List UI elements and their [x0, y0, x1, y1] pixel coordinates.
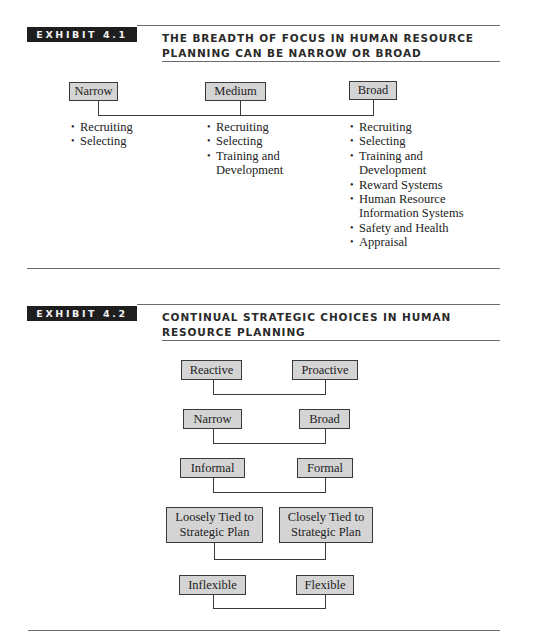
connector — [325, 429, 326, 443]
exhibit-bottom-rule — [27, 268, 500, 269]
connector — [325, 543, 326, 559]
list-item: Recruiting — [350, 120, 480, 134]
narrow-list: Recruiting Selecting — [71, 120, 191, 149]
medium-list: Recruiting Selecting Training and Develo… — [207, 120, 317, 178]
connector — [213, 443, 326, 444]
title-line-2: Resource Planning — [162, 325, 502, 340]
list-item: Human Resource Information Systems — [350, 192, 480, 221]
box-loosely-tied: Loosely Tied to Strategic Plan — [166, 507, 263, 543]
box-narrow: Narrow — [183, 409, 242, 429]
title-top-rule — [137, 25, 500, 26]
connector — [213, 394, 326, 395]
box-reactive: Reactive — [181, 360, 242, 380]
connector — [98, 115, 374, 116]
connector — [213, 380, 214, 394]
title-bottom-rule — [162, 340, 500, 341]
connector — [213, 492, 326, 493]
connector — [213, 478, 214, 492]
connector — [213, 429, 214, 443]
connector — [325, 595, 326, 608]
connector — [325, 380, 326, 394]
box-inflexible: Inflexible — [179, 575, 246, 595]
box-broad: Broad — [299, 409, 350, 429]
exhibit-label: EXHIBIT 4.1 — [27, 27, 137, 42]
list-item: Selecting — [207, 134, 317, 148]
list-item: Safety and Health — [350, 221, 480, 235]
connector — [98, 101, 99, 116]
connector — [213, 608, 326, 609]
title-bottom-rule — [162, 61, 500, 62]
connector — [325, 478, 326, 492]
box-flexible: Flexible — [296, 575, 354, 595]
box-medium: Medium — [205, 82, 266, 101]
list-item: Selecting — [350, 134, 480, 148]
connector — [213, 595, 214, 608]
list-item: Selecting — [71, 134, 191, 148]
exhibit-label: EXHIBIT 4.2 — [27, 306, 137, 321]
exhibit-title: The Breadth of Focus in Human Resource P… — [162, 31, 502, 61]
exhibit-bottom-rule — [28, 630, 500, 631]
box-narrow: Narrow — [69, 82, 118, 101]
title-line-1: The Breadth of Focus in Human Resource — [162, 31, 502, 46]
box-closely-tied: Closely Tied to Strategic Plan — [279, 507, 373, 543]
list-item: Recruiting — [207, 120, 317, 134]
title-line-2: Planning Can Be Narrow or Broad — [162, 46, 502, 61]
connector — [214, 543, 215, 559]
list-item: Training and Development — [207, 149, 317, 178]
list-item: Reward Systems — [350, 178, 480, 192]
connector — [373, 100, 374, 116]
title-top-rule — [137, 304, 500, 305]
exhibit-title: Continual Strategic Choices in Human Res… — [162, 310, 502, 340]
list-item: Training and Development — [350, 149, 480, 178]
box-informal: Informal — [180, 458, 245, 478]
box-proactive: Proactive — [292, 360, 358, 380]
connector — [214, 559, 326, 560]
box-formal: Formal — [297, 458, 353, 478]
connector — [240, 101, 241, 116]
title-line-1: Continual Strategic Choices in Human — [162, 310, 502, 325]
list-item: Appraisal — [350, 235, 480, 249]
box-broad: Broad — [349, 81, 397, 100]
broad-list: Recruiting Selecting Training and Develo… — [350, 120, 480, 250]
list-item: Recruiting — [71, 120, 191, 134]
